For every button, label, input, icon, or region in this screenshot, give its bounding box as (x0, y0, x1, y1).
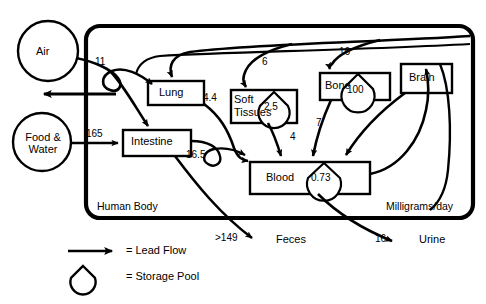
food-water-label-line2: Water (17, 144, 69, 156)
flow-value-intestine-to-blood: 16.5 (186, 150, 205, 160)
food-water-node-label: Food & Water (17, 132, 69, 155)
blood-pool-value: 0.73 (311, 173, 330, 183)
units-region-label: Milligrams/day (386, 201, 453, 212)
blood-label: Blood (266, 172, 294, 183)
brain-label: Brain (409, 72, 435, 83)
lung-label: Lung (159, 87, 183, 98)
soft-tissues-pool-value: 2.5 (264, 102, 278, 112)
urine-node-label: Urine (419, 234, 445, 245)
flow-value-lung-to-blood: 4.4 (203, 93, 217, 103)
human-body-region-label: Human Body (97, 201, 158, 212)
legend-storage-pool-text: = Storage Pool (126, 271, 199, 282)
feces-node-label: Feces (276, 234, 306, 245)
flow-value-bone-to-blood: 7 (316, 118, 322, 128)
flow-blood-to-bone (329, 40, 380, 69)
flow-value-blood-to-urine: 16 (375, 234, 386, 244)
flow-intestine-to-feces (175, 156, 252, 238)
flow-air-to-intestine (111, 72, 148, 126)
flow-bone-to-blood (313, 100, 331, 156)
flow-value-intestine-to-feces: >149 (215, 233, 238, 243)
food-water-label-line1: Food & (17, 132, 69, 144)
flow-value-blood-to-bone: 16 (339, 47, 350, 57)
flow-value-air-to-lung: 11 (95, 57, 105, 67)
flow-value-food-to-intestine: 165 (86, 129, 103, 139)
bone-pool-value: 100 (347, 85, 364, 95)
flow-value-soft-tissues-to-blood: 4 (290, 132, 296, 142)
intestine-label: Intestine (131, 136, 173, 147)
soft-tissues-label-line1: Soft (234, 94, 254, 105)
lead-flow-diagram: Air Food & Water Lung Intestine Soft Tis… (0, 0, 486, 304)
air-node-label: Air (36, 46, 49, 57)
flow-value-blood-to-soft-tissues: 6 (262, 57, 268, 67)
legend-pool-icon (70, 266, 95, 294)
legend-lead-flow-text: = Lead Flow (126, 245, 186, 256)
diagram-graphics (0, 0, 486, 304)
